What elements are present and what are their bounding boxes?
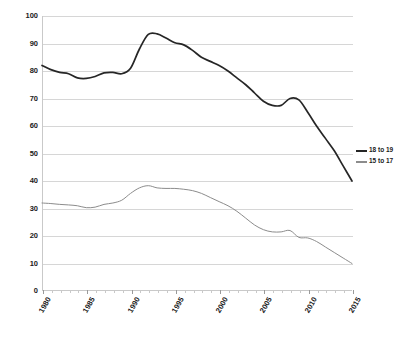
x-axis-tick-label: 1980 (38, 296, 53, 314)
x-axis-tick-label: 2005 (259, 296, 274, 314)
series-line (42, 33, 352, 181)
y-axis-tick-label: 80 (30, 67, 38, 75)
y-axis-tick-label: 30 (30, 205, 38, 213)
y-axis-tick-label: 50 (30, 150, 38, 158)
x-axis-tick-label: 1995 (171, 296, 186, 314)
series-lines (42, 16, 352, 291)
y-axis-tick-label: 0 (34, 287, 38, 295)
y-axis-tick-label: 10 (30, 260, 38, 268)
legend-item-label: 15 to 17 (369, 158, 393, 165)
x-axis-tick-label: 2015 (348, 296, 363, 314)
y-axis-tick-label: 40 (30, 177, 38, 185)
legend-item[interactable]: 15 to 17 (356, 157, 393, 166)
legend-swatch-icon (356, 150, 367, 152)
legend-item-label: 18 to 19 (369, 147, 393, 154)
y-axis-tick-label: 60 (30, 122, 38, 130)
y-axis-tick-label: 20 (30, 232, 38, 240)
chart-legend: 18 to 1915 to 17 (356, 146, 393, 166)
y-axis-tick-label: 90 (30, 40, 38, 48)
y-axis-tick-label: 100 (25, 12, 38, 20)
x-axis-tick-label: 2010 (303, 296, 318, 314)
x-axis-tick-label: 1985 (82, 296, 97, 314)
legend-item[interactable]: 18 to 19 (356, 146, 393, 155)
series-line (42, 186, 352, 264)
x-axis-tick-label: 2000 (215, 296, 230, 314)
y-axis-tick-label: 70 (30, 95, 38, 103)
x-axis-tick (353, 290, 354, 294)
legend-swatch-icon (356, 161, 367, 163)
line-chart: 0102030405060708090100198019851990199520… (0, 0, 413, 338)
x-axis-tick-label: 1990 (126, 296, 141, 314)
